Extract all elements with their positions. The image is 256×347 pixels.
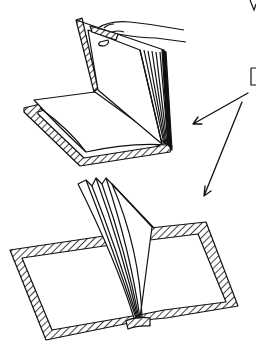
book-being-opened xyxy=(24,18,186,166)
arrow-to-bottom-book xyxy=(204,102,242,196)
spine xyxy=(126,317,150,329)
open-book xyxy=(10,178,238,340)
book-illustration xyxy=(0,0,256,347)
partial-letter-v xyxy=(250,0,256,10)
arrows xyxy=(193,93,248,196)
partial-letter-d xyxy=(251,68,256,85)
edge-marks xyxy=(250,0,256,85)
